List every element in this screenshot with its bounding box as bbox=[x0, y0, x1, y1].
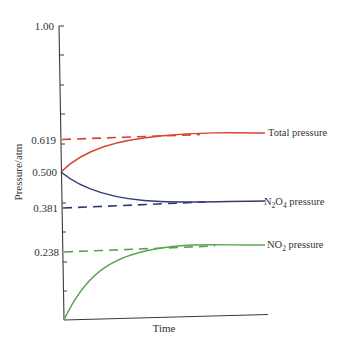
axes bbox=[59, 26, 268, 320]
y-axis-title: Pressure/atm bbox=[12, 143, 24, 200]
y-label-0-381: 0.381 bbox=[33, 202, 58, 214]
x-axis-title: Time bbox=[153, 322, 176, 334]
y-label-0-619: 0.619 bbox=[31, 134, 56, 146]
label-total-pressure: Total pressure bbox=[268, 127, 327, 138]
y-label-0-500: 0.500 bbox=[32, 166, 57, 178]
equilibrium-lines bbox=[62, 135, 215, 253]
y-label-1-00: 1.00 bbox=[35, 20, 55, 32]
y-tick-labels: 1.00 0.619 0.500 0.381 0.238 bbox=[31, 20, 59, 258]
x-axis bbox=[64, 315, 268, 321]
label-no2-pressure: NO2 pressure bbox=[267, 239, 324, 253]
n2o4-equilibrium-dashed bbox=[63, 202, 205, 208]
no2-equilibrium-dashed bbox=[64, 246, 215, 252]
no2-pressure-curve bbox=[64, 245, 265, 320]
pressure-time-chart: 1.00 0.619 0.500 0.381 0.238 Pressure/at… bbox=[0, 0, 339, 347]
total-pressure-curve bbox=[61, 133, 265, 172]
total-equilibrium-dashed bbox=[62, 135, 200, 140]
label-n2o4-pressure: N2O4 pressure bbox=[264, 196, 325, 210]
n2o4-pressure-curve bbox=[61, 172, 265, 202]
curves bbox=[61, 133, 265, 320]
y-label-0-238: 0.238 bbox=[34, 246, 59, 258]
series-labels: Total pressure N2O4 pressure NO2 pressur… bbox=[264, 127, 327, 253]
